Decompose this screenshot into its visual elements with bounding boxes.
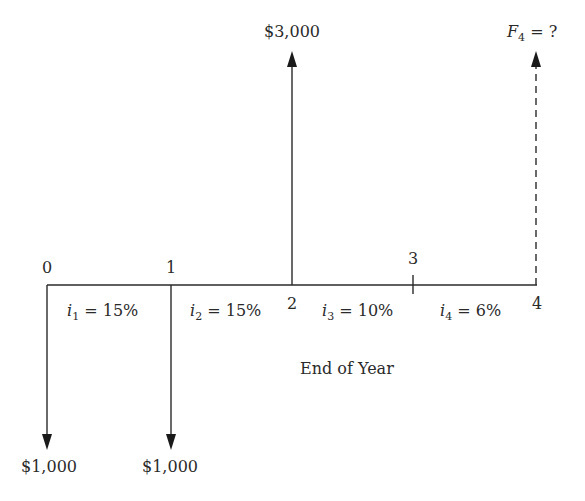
period-label-3: 3 [408,249,418,268]
cash-flow-label-0: $1,000 [21,457,77,476]
rate-label-4: i4 = 6% [440,301,501,323]
cash-flow-diagram [0,0,585,501]
period-label-4: 4 [532,294,542,313]
arrowhead-up-2 [287,51,297,67]
arrowhead-up-4 [531,51,541,67]
cash-flow-label-1: $1,000 [142,457,198,476]
rate-label-3: i3 = 10% [322,301,393,323]
arrowhead-down-0 [42,434,52,450]
arrowhead-down-1 [166,434,176,450]
future-value-label: F4 = ? [507,22,557,44]
period-label-2: 2 [287,294,297,313]
cash-flow-label-2: $3,000 [264,22,320,41]
rate-label-1: i1 = 15% [67,301,138,323]
period-label-1: 1 [166,258,176,277]
axis-label: End of Year [300,359,394,378]
period-label-0: 0 [42,258,52,277]
rate-label-2: i2 = 15% [190,301,261,323]
